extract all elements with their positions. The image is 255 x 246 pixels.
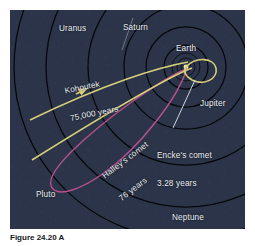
comet-label-kohoutek-period: 75,000 years [69, 104, 119, 123]
comet-label-kohoutek-name: Kohoutek [64, 77, 114, 96]
figure-root: Uranus Saturn Earth Jupiter Pluto Neptun… [0, 0, 255, 246]
planet-label-earth: Earth [176, 44, 196, 53]
figure-caption: Figure 24.20 A [10, 233, 245, 242]
planet-label-uranus: Uranus [59, 24, 86, 33]
comet-label-encke-period: 3.28 years [157, 179, 212, 188]
planet-label-saturn: Saturn [123, 23, 148, 32]
solar-system-diagram-panel: Uranus Saturn Earth Jupiter Pluto Neptun… [10, 10, 245, 229]
comet-label-encke-name: Encke's comet [157, 151, 212, 160]
comet-label-halley-name: Halley's comet [100, 140, 150, 181]
planet-label-jupiter: Jupiter [200, 99, 226, 108]
comet-label-encke: Encke's comet 3.28 years [157, 132, 212, 207]
planet-label-neptune: Neptune [172, 213, 204, 222]
planet-label-pluto: Pluto [36, 190, 55, 199]
